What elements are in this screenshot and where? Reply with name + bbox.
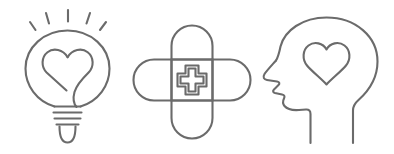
light-rays-icon bbox=[30, 10, 106, 30]
heart-filament-icon bbox=[43, 50, 68, 91]
crossed-bandages-icon: First aid bbox=[122, 0, 262, 154]
heart-icon bbox=[304, 43, 350, 84]
bulb-glass-icon bbox=[26, 31, 110, 107]
head-heart-icon: Mental wellbeing bbox=[258, 0, 394, 154]
bulb-base-icon bbox=[54, 107, 82, 125]
medical-cross-outer-icon bbox=[178, 66, 207, 95]
heart-filament-right-icon bbox=[68, 50, 93, 107]
head-profile-icon bbox=[264, 61, 311, 144]
head-skull-icon bbox=[276, 18, 378, 144]
medical-cross-inner-icon bbox=[181, 69, 204, 92]
bulb-tip-icon bbox=[60, 127, 76, 143]
icon-row: Idea with heart bbox=[0, 0, 394, 154]
lightbulb-heart-icon: Idea with heart bbox=[0, 0, 130, 154]
